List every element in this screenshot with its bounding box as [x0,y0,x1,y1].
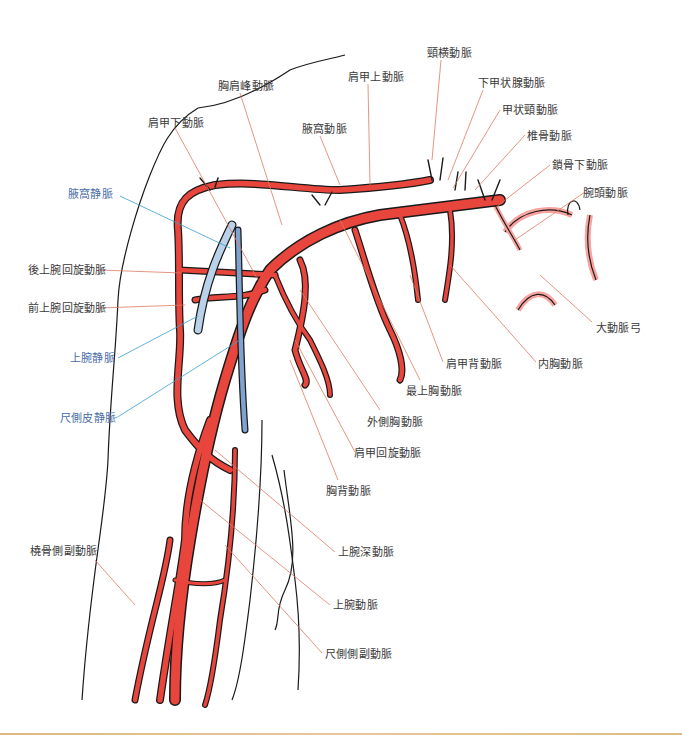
label-suprascapular-artery: 肩甲上動脈 [348,71,404,84]
aortic-arch [495,201,596,310]
label-posterior-circumflex-humeral-artery: 後上腕回旋動脈 [28,264,106,277]
label-subclavian-artery: 鎖骨下動脈 [552,159,608,172]
label-internal-thoracic-artery: 内胸動脈 [538,358,583,371]
label-anterior-circumflex-humeral-artery: 前上腕回旋動脈 [28,302,106,315]
label-thoracoacromial-artery: 胸肩峰動脈 [218,80,274,93]
label-axillary-vein: 腋窩静脈 [68,188,113,201]
arm-vessels-illustration [0,0,682,747]
label-dorsal-scapular-artery: 肩甲背動脈 [446,358,502,371]
label-basilic-vein: 尺側皮静脈 [60,412,116,425]
label-transverse-cervical-artery: 頸横動脈 [427,47,472,60]
arteries [135,158,500,705]
bottom-divider [0,733,682,735]
label-inferior-thyroid-artery: 下甲状腺動脈 [478,77,545,90]
label-brachiocephalic-artery: 腕頭動脈 [583,187,628,200]
label-aortic-arch: 大動脈弓 [596,322,641,335]
label-radial-collateral-artery: 橈骨側副動脈 [30,545,97,558]
label-circumflex-scapular-artery: 肩甲回旋動脈 [354,447,421,460]
label-vertebral-artery: 椎骨動脈 [527,130,572,143]
label-thoracodorsal-artery: 胸背動脈 [326,485,371,498]
label-deep-brachial-artery: 上腕深動脈 [338,546,394,559]
label-thyrocervical-trunk: 甲状頸動脈 [502,104,558,117]
anatomy-diagram [0,0,682,747]
label-subscapular-artery: 肩甲下動脈 [148,117,204,130]
artery-leader-lines [95,60,592,653]
label-axillary-artery: 腋窩動脈 [302,123,347,136]
label-ulnar-collateral-artery: 尺側側副動脈 [325,648,392,661]
label-superior-thoracic-artery: 最上胸動脈 [406,385,462,398]
label-lateral-thoracic-artery: 外側胸動脈 [367,416,423,429]
label-brachial-vein: 上腕静脈 [70,352,115,365]
label-brachial-artery: 上腕動脈 [333,599,378,612]
